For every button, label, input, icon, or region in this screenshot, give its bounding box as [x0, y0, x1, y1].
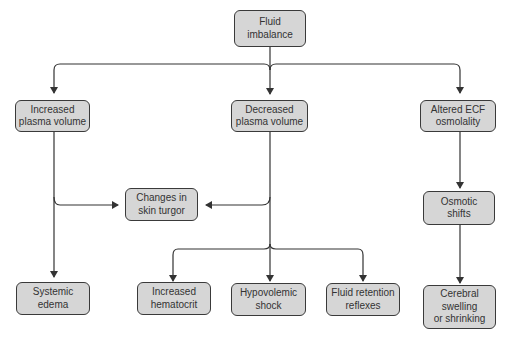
flowchart-canvas: Fluid imbalance Increased plasma volume …: [0, 0, 508, 338]
node-cerebral-swelling: Cerebral swelling or shrinking: [423, 285, 496, 329]
node-decreased-plasma-volume: Decreased plasma volume: [231, 100, 308, 132]
node-hypovolemic-shock: Hypovolemic shock: [231, 283, 306, 316]
node-fluid-retention-reflexes: Fluid retention reflexes: [326, 283, 400, 316]
node-altered-ecf-osmolality: Altered ECF osmolality: [420, 100, 496, 132]
node-increased-hematocrit: Increased hematocrit: [137, 282, 211, 315]
node-increased-plasma-volume: Increased plasma volume: [15, 100, 90, 132]
node-fluid-imbalance: Fluid imbalance: [234, 10, 306, 47]
node-changes-in-skin-turgor: Changes in skin turgor: [125, 188, 198, 221]
node-osmotic-shifts: Osmotic shifts: [423, 191, 495, 225]
node-systemic-edema: Systemic edema: [16, 282, 90, 315]
